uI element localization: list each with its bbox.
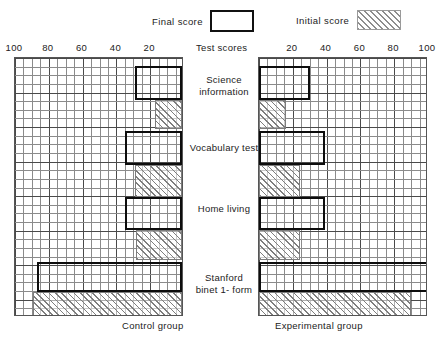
bar-initial-score bbox=[33, 292, 182, 316]
bar-final-score bbox=[259, 131, 325, 165]
plot-experimental-group bbox=[258, 57, 427, 316]
bar-initial-score bbox=[259, 292, 411, 316]
category-label-line1: Stanford bbox=[188, 272, 260, 284]
bar-initial-score bbox=[136, 230, 182, 260]
axis-tick-60: 60 bbox=[354, 42, 365, 53]
axis-tick-40: 40 bbox=[320, 42, 331, 53]
bar-final-score bbox=[259, 66, 310, 100]
axis-tick-100: 100 bbox=[419, 42, 436, 53]
bar-final-score bbox=[125, 131, 182, 165]
bar-final-score bbox=[259, 197, 325, 230]
gridline-vertical bbox=[23, 58, 24, 315]
right-axis-tick-labels: 20406080100 bbox=[0, 42, 438, 55]
legend-swatch-final-score bbox=[210, 10, 254, 32]
axis-tick-80: 80 bbox=[388, 42, 399, 53]
legend: Final score Initial score bbox=[0, 6, 438, 32]
category-label-line1: Vocabulary test bbox=[188, 142, 260, 154]
caption-experimental-group: Experimental group bbox=[275, 320, 363, 331]
legend-item-initial-score: Initial score bbox=[296, 10, 401, 30]
gridline-vertical bbox=[15, 58, 16, 315]
category-label-3: Home living bbox=[188, 203, 260, 215]
category-label-line1: Home living bbox=[188, 203, 260, 215]
bar-initial-score bbox=[135, 165, 182, 197]
gridline-horizontal bbox=[259, 58, 426, 59]
plot-control-group bbox=[14, 57, 183, 316]
legend-swatch-initial-score bbox=[357, 10, 401, 30]
category-label-1: Scienceinformation bbox=[188, 74, 260, 97]
category-label-line2: binet 1- form bbox=[188, 284, 260, 296]
bar-initial-score bbox=[155, 100, 182, 129]
legend-label-final-score: Final score bbox=[152, 16, 203, 27]
category-label-line1: Science bbox=[188, 74, 260, 86]
bar-initial-score bbox=[259, 165, 300, 197]
bar-initial-score bbox=[259, 230, 300, 260]
chart-figure: Final score Initial score 10080604020 Te… bbox=[0, 0, 438, 347]
caption-control-group: Control group bbox=[122, 320, 183, 331]
bar-initial-score bbox=[259, 100, 286, 129]
axis-tick-20: 20 bbox=[286, 42, 297, 53]
legend-item-final-score: Final score bbox=[152, 10, 254, 32]
gridline-vertical bbox=[32, 58, 33, 315]
legend-label-initial-score: Initial score bbox=[296, 15, 349, 26]
category-label-4: Stanfordbinet 1- form bbox=[188, 272, 260, 295]
category-label-line2: information bbox=[188, 86, 260, 98]
bar-final-score bbox=[259, 262, 427, 292]
category-label-2: Vocabulary test bbox=[188, 142, 260, 154]
gridline-horizontal bbox=[15, 58, 182, 59]
bar-final-score bbox=[125, 197, 182, 230]
bar-final-score bbox=[37, 262, 182, 292]
bar-final-score bbox=[135, 66, 182, 100]
